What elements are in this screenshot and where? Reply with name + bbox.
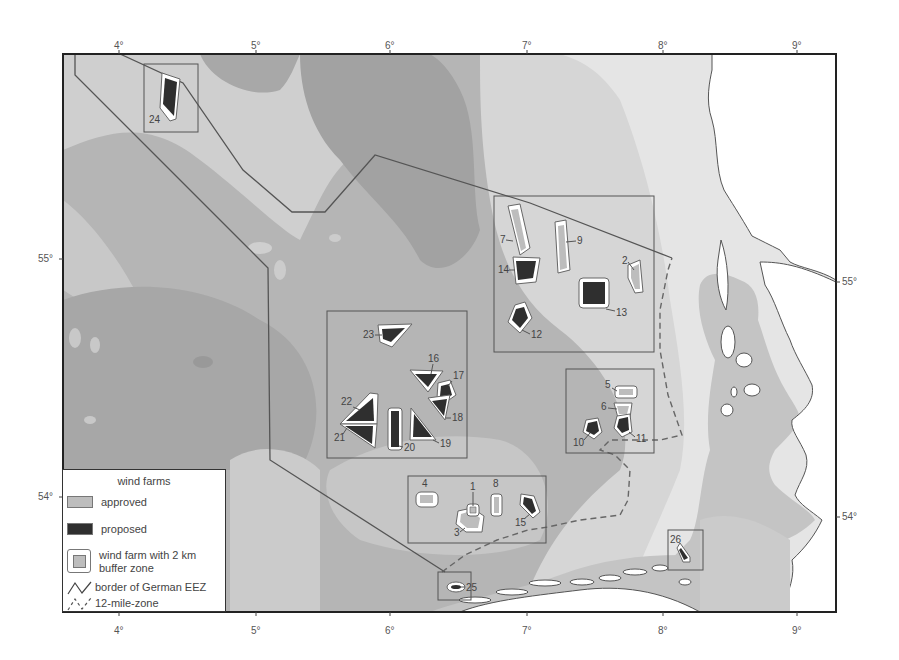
legend-item-12-mile-zone: 12-mile-zone [67, 597, 159, 611]
svg-text:18: 18 [452, 412, 464, 423]
svg-text:3: 3 [454, 527, 460, 538]
legend-item-approved: approved [67, 496, 147, 509]
svg-text:9: 9 [577, 235, 583, 246]
buffer-inner-swatch-icon [73, 555, 86, 568]
svg-text:7: 7 [500, 234, 506, 245]
svg-text:14: 14 [498, 264, 510, 275]
svg-text:5: 5 [605, 379, 611, 390]
svg-text:20: 20 [404, 442, 416, 453]
svg-text:11: 11 [636, 433, 647, 444]
legend: wind farms approved proposed wind farm w… [62, 469, 226, 612]
svg-text:22: 22 [341, 396, 353, 407]
svg-text:2: 2 [622, 255, 628, 266]
legend-label-eez-border: border of German EEZ [95, 581, 206, 594]
svg-text:16: 16 [428, 353, 440, 364]
svg-text:1: 1 [470, 481, 476, 492]
svg-text:23: 23 [363, 329, 375, 340]
proposed-swatch-icon [67, 523, 93, 535]
legend-item-eez-border: border of German EEZ [67, 581, 206, 595]
svg-text:26: 26 [670, 534, 682, 545]
buffer-zone-swatch-icon [67, 549, 91, 573]
legend-label-buffer-zone: wind farm with 2 km buffer zone [99, 549, 219, 575]
svg-text:10: 10 [573, 437, 585, 448]
svg-text:17: 17 [453, 370, 465, 381]
svg-text:6: 6 [601, 401, 607, 412]
svg-text:4: 4 [422, 478, 428, 489]
svg-text:12: 12 [531, 329, 543, 340]
svg-text:13: 13 [616, 307, 628, 318]
svg-text:19: 19 [440, 438, 452, 449]
svg-text:25: 25 [466, 582, 478, 593]
legend-label-proposed: proposed [101, 523, 147, 536]
legend-title: wind farms [63, 475, 225, 487]
legend-item-proposed: proposed [67, 523, 147, 536]
approved-swatch-icon [67, 496, 93, 508]
legend-item-buffer-zone: wind farm with 2 km buffer zone [67, 549, 219, 575]
twelve-mile-zone-line-icon [67, 597, 93, 611]
label-24: 24 [149, 114, 161, 125]
eez-border-line-icon [67, 581, 93, 595]
svg-text:8: 8 [493, 478, 499, 489]
legend-label-approved: approved [101, 496, 147, 509]
legend-label-12-mile-zone: 12-mile-zone [95, 597, 159, 610]
